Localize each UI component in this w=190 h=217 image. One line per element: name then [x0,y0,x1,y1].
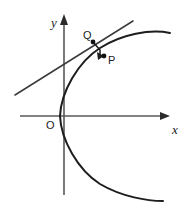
x-axis-arrowhead [160,112,170,120]
y-axis-arrowhead [60,14,68,25]
x-axis [20,112,170,120]
point-q-label: Q [83,30,92,41]
origin-label: O [46,120,55,131]
point-p-label: P [108,55,115,66]
x-axis-label: x [172,123,178,136]
parabola-lower-branch [60,116,163,201]
y-axis-label: y [51,16,57,29]
parabola-figure: y x O Q P [0,0,190,217]
point-p-dot [102,54,107,59]
parabola-upper-branch [60,32,170,116]
figure-canvas [0,0,190,217]
